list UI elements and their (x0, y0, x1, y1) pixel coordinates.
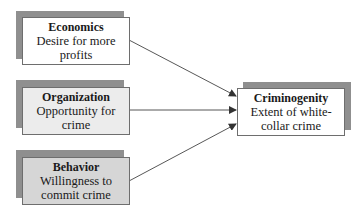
node-description-line: profits (60, 48, 93, 62)
arrow-economics-to-criminogenity (129, 40, 236, 96)
node-title: Criminogenity (254, 91, 329, 105)
node-box-criminogenity: Criminogenity Extent of white- collar cr… (237, 88, 345, 136)
node-description-line: Opportunity for (37, 104, 116, 118)
node-description-line: crime (62, 118, 90, 132)
node-description-line: commit crime (41, 188, 111, 202)
node-title: Economics (48, 20, 103, 34)
node-box-behavior: Behavior Willingness to commit crime (22, 157, 130, 205)
node-title: Behavior (53, 160, 100, 174)
arrow-behavior-to-criminogenity (129, 124, 236, 181)
node-description-line: collar crime (261, 119, 321, 133)
node-description-line: Extent of white- (250, 105, 331, 119)
node-title: Organization (42, 90, 110, 104)
node-box-organization: Organization Opportunity for crime (22, 87, 130, 135)
node-box-economics: Economics Desire for more profits (22, 17, 130, 65)
node-description-line: Desire for more (36, 34, 115, 48)
node-description-line: Willingness to (40, 174, 112, 188)
